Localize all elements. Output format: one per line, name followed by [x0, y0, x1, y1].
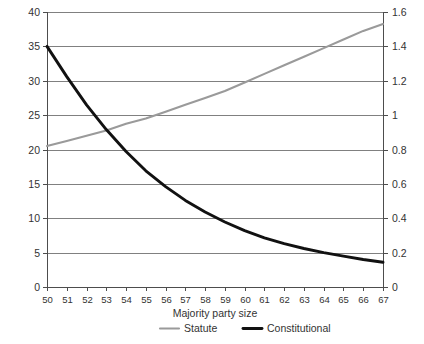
- y2-tick-label: 0.8: [392, 144, 407, 156]
- y-tick-label: 5: [34, 247, 40, 259]
- plot-axes: [47, 12, 384, 288]
- y-axis-ticks: 0510152025303540: [28, 6, 47, 293]
- x-tick-label: 52: [82, 294, 93, 305]
- y-tick-label: 15: [28, 178, 40, 190]
- y2-tick-label: 1.4: [392, 40, 407, 52]
- line-chart: 0510152025303540 00.20.40.60.811.21.41.6…: [0, 0, 424, 344]
- x-axis-ticks: 505152535455565758596061626364656667: [42, 287, 389, 305]
- y-tick-label: 0: [34, 281, 40, 293]
- series-line-constitutional: [47, 46, 383, 262]
- data-series: [47, 24, 383, 262]
- x-tick-label: 66: [358, 294, 369, 305]
- x-tick-label: 58: [200, 294, 211, 305]
- x-tick-label: 57: [180, 294, 191, 305]
- x-tick-label: 61: [259, 294, 270, 305]
- y2-tick-label: 1.6: [392, 6, 407, 18]
- x-tick-label: 50: [42, 294, 53, 305]
- x-tick-label: 63: [299, 294, 310, 305]
- y-tick-label: 35: [28, 40, 40, 52]
- x-tick-label: 54: [121, 294, 132, 305]
- y-tick-label: 20: [28, 144, 40, 156]
- legend-label-statute: Statute: [184, 322, 217, 334]
- x-tick-label: 53: [101, 294, 112, 305]
- x-tick-label: 64: [319, 294, 330, 305]
- x-tick-label: 51: [62, 294, 73, 305]
- y-tick-label: 40: [28, 6, 40, 18]
- series-line-statute: [47, 24, 383, 146]
- y-tick-label: 30: [28, 75, 40, 87]
- y2-tick-label: 0.4: [392, 212, 407, 224]
- x-tick-label: 59: [220, 294, 231, 305]
- x-tick-label: 67: [378, 294, 389, 305]
- y-tick-label: 25: [28, 109, 40, 121]
- chart-legend: StatuteConstitutional: [160, 322, 331, 334]
- x-tick-label: 65: [338, 294, 349, 305]
- y-tick-label: 10: [28, 212, 40, 224]
- x-tick-label: 55: [141, 294, 152, 305]
- chart-container: 0510152025303540 00.20.40.60.811.21.41.6…: [0, 0, 424, 344]
- y2-tick-label: 0.6: [392, 178, 407, 190]
- y2-tick-label: 0.2: [392, 247, 407, 259]
- y2-axis-ticks: 00.20.40.60.811.21.41.6: [383, 6, 407, 293]
- y2-tick-label: 1.2: [392, 75, 407, 87]
- legend-label-constitutional: Constitutional: [267, 322, 331, 334]
- x-tick-label: 62: [279, 294, 290, 305]
- x-tick-label: 56: [161, 294, 172, 305]
- y2-tick-label: 1: [392, 109, 398, 121]
- x-tick-label: 60: [240, 294, 251, 305]
- y2-tick-label: 0: [392, 281, 398, 293]
- x-axis-title: Majority party size: [173, 307, 258, 319]
